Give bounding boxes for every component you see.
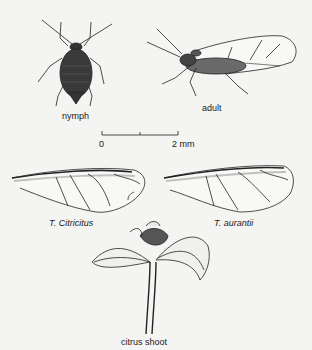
adult-label: adult <box>202 103 222 113</box>
figure-illustrations <box>0 0 312 350</box>
wing-t-aurantii-label: T. aurantii <box>214 218 253 228</box>
scale-start-label: 0 <box>99 139 104 149</box>
adult-illustration <box>147 29 296 96</box>
nymph-illustration <box>38 20 112 106</box>
citrus-shoot-label: citrus shoot <box>121 337 167 347</box>
wing-t-citricitus <box>12 168 145 212</box>
scale-end-label: 2 mm <box>172 139 195 149</box>
wing-t-citricitus-label: T. Citricitus <box>49 218 93 228</box>
aphid-figure: nymph adult 0 2 mm T. Citricitus T. aura… <box>0 0 312 350</box>
scale-bar <box>102 131 178 135</box>
wing-t-aurantii <box>164 166 293 212</box>
citrus-shoot-illustration <box>92 222 209 335</box>
nymph-label: nymph <box>62 111 89 121</box>
